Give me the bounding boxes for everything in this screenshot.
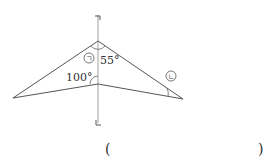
geometry-diagram: ㄱ ㄴ 55° 100° ( ) — [0, 0, 272, 167]
angle-100-label: 100° — [66, 71, 93, 84]
answer-close-paren: ) — [258, 141, 263, 157]
line-label-bottom-icon — [96, 120, 101, 125]
answer-open-paren: ( — [105, 141, 110, 157]
angle-55-label: 55° — [100, 54, 120, 67]
marker-a-label: ㄱ — [86, 55, 92, 63]
line-label-top-icon — [95, 16, 100, 20]
marker-b-label: ㄴ — [168, 73, 174, 81]
